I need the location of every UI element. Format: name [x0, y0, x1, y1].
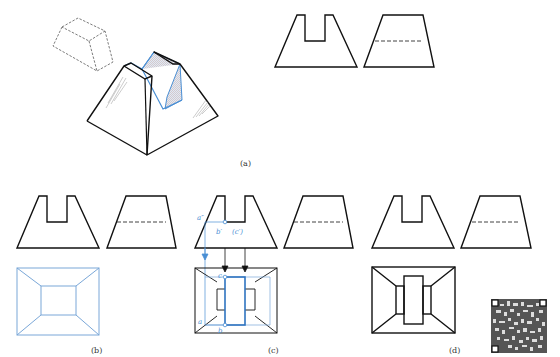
- figure-canvas: (a) (b): [0, 0, 560, 357]
- panel-label-b: (b): [91, 346, 102, 355]
- panel-label-c: (c): [268, 346, 279, 355]
- top-view-b: [17, 268, 99, 335]
- front-view-a: [275, 15, 357, 67]
- qr-code-icon[interactable]: [490, 298, 548, 354]
- label-c: c: [218, 272, 222, 280]
- point-b: [223, 323, 227, 327]
- removed-block-dashed: [53, 18, 113, 71]
- label-a-double-prime: a″: [197, 214, 204, 222]
- point-c: [223, 275, 227, 279]
- side-view-a: [364, 15, 434, 67]
- label-b: b: [218, 327, 223, 335]
- panel-label-a: (a): [240, 159, 251, 168]
- top-view-c: [195, 268, 277, 333]
- side-view-c: [284, 196, 353, 248]
- side-view-b: [107, 196, 176, 248]
- slotted-frustum-isometric: [87, 52, 218, 155]
- front-view-b: [17, 196, 99, 248]
- point-b-prime: [223, 220, 227, 224]
- label-c-prime: (c′): [232, 228, 243, 236]
- top-view-d: [372, 267, 455, 333]
- front-view-d: [372, 196, 454, 248]
- projection-arrow-blue: [202, 248, 208, 260]
- panel-label-d: (d): [449, 346, 460, 355]
- label-a: a: [198, 318, 202, 326]
- side-view-d: [461, 196, 531, 248]
- label-b-prime: b′: [216, 228, 222, 236]
